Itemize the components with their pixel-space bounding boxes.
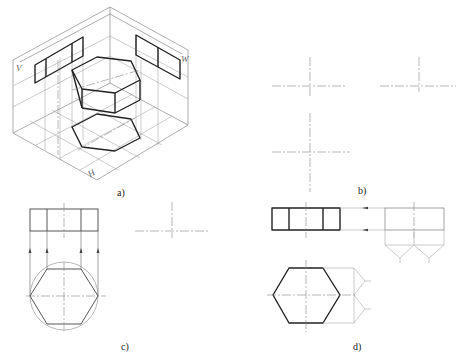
plane-label-h: H bbox=[85, 167, 97, 180]
h-projection bbox=[72, 114, 140, 151]
subfigure-c: c) bbox=[26, 202, 208, 353]
subfigure-d: d) bbox=[267, 202, 444, 353]
subfigure-label-b: b) bbox=[358, 185, 366, 197]
subfigure-label-d: d) bbox=[353, 341, 361, 353]
subfigure-b-centerlines: b) bbox=[272, 57, 456, 197]
subfigure-a-isometric: V W H a) bbox=[13, 7, 190, 199]
subfigure-label-c: c) bbox=[121, 341, 129, 353]
subfigure-label-a: a) bbox=[117, 187, 125, 199]
plane-label-w: W bbox=[181, 54, 190, 64]
projection-figure: V W H a) b) bbox=[0, 0, 461, 362]
plane-label-v: V bbox=[16, 63, 23, 73]
